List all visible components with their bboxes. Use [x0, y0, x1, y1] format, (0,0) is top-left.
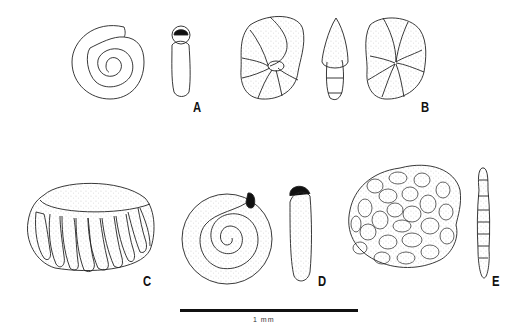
scale-bar: [180, 309, 358, 312]
specimen-a-edge-view: [172, 26, 190, 97]
specimen-c-side-view: [27, 183, 154, 271]
specimen-d-edge-view: [290, 186, 312, 281]
specimen-b-umbilical-view: [241, 16, 304, 99]
specimen-e-side-view: [349, 165, 461, 267]
panel-label-a: A: [193, 98, 201, 115]
specimen-a-side-view: [72, 26, 144, 99]
panel-label-b: B: [421, 98, 429, 115]
scale-bar-label: 1 mm: [253, 316, 275, 323]
panel-label-e: E: [492, 272, 500, 289]
specimen-b-spiral-view: [366, 18, 426, 99]
panel-label-d: D: [318, 272, 326, 289]
specimen-e-edge-view: [477, 168, 490, 278]
specimen-b-edge-view: [322, 18, 348, 100]
specimen-d-side-view: [182, 193, 272, 284]
panel-label-c: C: [143, 272, 151, 289]
figure-plate: A B C D E 1 mm: [0, 0, 527, 332]
